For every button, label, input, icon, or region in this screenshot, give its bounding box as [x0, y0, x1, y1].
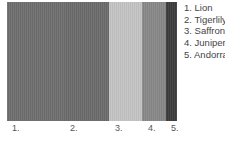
- segment-saffron: [109, 2, 142, 121]
- x-tick-label-2: 2.: [70, 123, 78, 133]
- legend-item-andorra: 5. Andorra: [184, 49, 225, 61]
- x-tick-label-5: 5.: [171, 123, 179, 133]
- legend-item-juniper: 4. Juniper: [184, 37, 225, 49]
- x-tick-label-3: 3.: [115, 123, 123, 133]
- legend-item-saffron: 3. Saffron: [184, 25, 225, 37]
- x-tick-label-1: 1.: [12, 123, 20, 133]
- chart-legend: 1. Lion 2. Tigerlily 3. Saffron 4. Junip…: [184, 2, 225, 61]
- segment-lion: [7, 2, 65, 121]
- chart-plot-area: [7, 2, 177, 121]
- segment-andorra: [166, 2, 177, 121]
- x-axis-labels: 1. 2. 3. 4. 5.: [0, 123, 180, 135]
- legend-item-lion: 1. Lion: [184, 2, 225, 14]
- x-tick-label-4: 4.: [148, 123, 156, 133]
- segment-tigerlily: [65, 2, 109, 121]
- legend-item-tigerlily: 2. Tigerlily: [184, 14, 225, 26]
- segment-juniper: [142, 2, 166, 121]
